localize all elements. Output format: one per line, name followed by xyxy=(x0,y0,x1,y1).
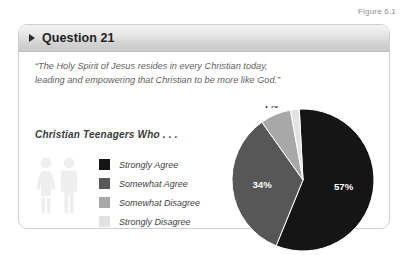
legend-swatch-strongly-agree xyxy=(99,159,110,170)
question-header: Question 21 xyxy=(19,25,389,52)
figure-label: Figure 6.1 xyxy=(358,7,396,16)
question-statement: “The Holy Spirit of Jesus resides in eve… xyxy=(35,60,293,87)
legend-item: Somewhat Disagree xyxy=(99,193,229,212)
pictogram-svg xyxy=(33,155,93,217)
legend-item: Strongly Agree xyxy=(99,155,229,174)
pictogram-group xyxy=(33,155,93,217)
legend-label: Somewhat Disagree xyxy=(119,198,200,208)
legend-label: Strongly Disagree xyxy=(119,217,191,227)
chart-legend: Strongly Agree Somewhat Agree Somewhat D… xyxy=(99,155,229,231)
legend-item: Somewhat Agree xyxy=(99,174,229,193)
legend-swatch-somewhat-disagree xyxy=(99,197,110,208)
pie-chart-svg: 57%34%7%2% xyxy=(225,106,385,255)
question-title: Question 21 xyxy=(42,31,115,45)
legend-swatch-strongly-disagree xyxy=(99,216,110,227)
triangle-right-icon xyxy=(29,34,35,42)
female-figure-icon xyxy=(37,158,56,214)
pie-value-label: 7% xyxy=(264,106,278,110)
male-figure-icon xyxy=(61,158,77,214)
legend-label: Somewhat Agree xyxy=(119,179,188,189)
legend-label: Strongly Agree xyxy=(119,160,178,170)
legend-item: Strongly Disagree xyxy=(99,212,229,231)
legend-swatch-somewhat-agree xyxy=(99,178,110,189)
pie-chart: 57%34%7%2% xyxy=(225,106,385,255)
pie-value-label: 57% xyxy=(334,181,354,192)
pie-value-label: 34% xyxy=(252,179,272,190)
chart-subheading: Christian Teenagers Who . . . xyxy=(35,129,178,140)
